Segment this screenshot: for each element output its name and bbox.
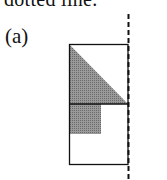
shaded-square bbox=[69, 104, 101, 134]
figure-diagram bbox=[0, 0, 167, 180]
shaded-triangle bbox=[69, 44, 128, 104]
